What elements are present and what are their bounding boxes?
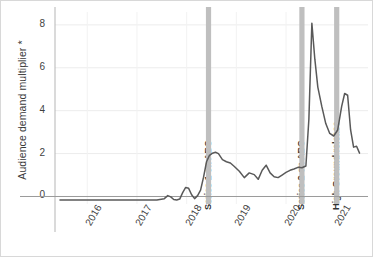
grid-lines bbox=[55, 12, 368, 204]
plot-area bbox=[0, 0, 373, 257]
chart-container: Audience demand multiplier * 02468 20162… bbox=[0, 0, 373, 257]
